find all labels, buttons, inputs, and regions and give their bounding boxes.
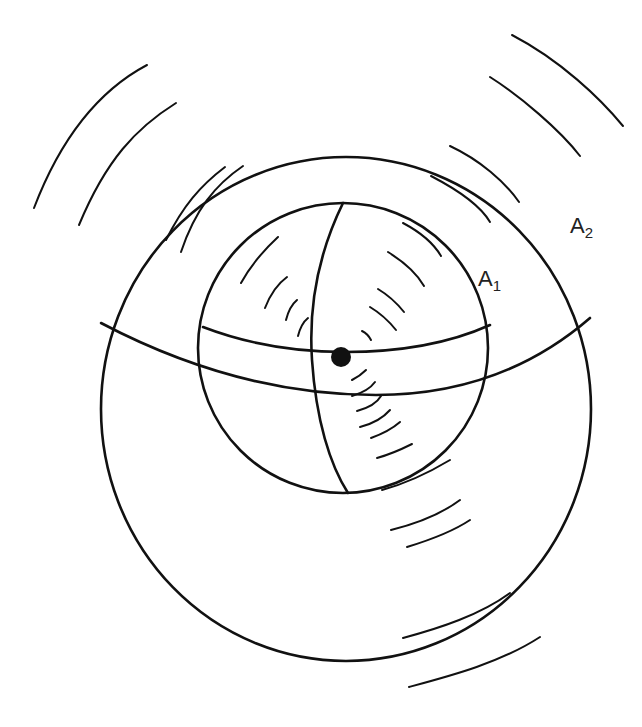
inner-sphere-equator xyxy=(203,325,490,352)
wave-arcs-upper-right xyxy=(362,35,623,340)
label-a1-main: A xyxy=(478,266,493,291)
wave-arcs-upper-left xyxy=(34,65,308,336)
outer-sphere-outline xyxy=(101,157,591,661)
label-a2-subscript: 2 xyxy=(585,224,593,241)
sphere-diagram xyxy=(0,0,642,727)
outer-sphere-a2 xyxy=(101,157,591,661)
label-a1: A1 xyxy=(478,268,501,293)
label-a1-subscript: 1 xyxy=(493,277,501,294)
point-source-dot xyxy=(331,347,351,367)
label-a2-main: A xyxy=(570,213,585,238)
diagram-canvas: A1 A2 xyxy=(0,0,642,727)
label-a2: A2 xyxy=(570,215,593,240)
